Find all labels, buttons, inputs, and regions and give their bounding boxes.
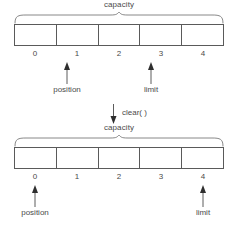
index-label: 2 bbox=[98, 48, 140, 60]
buffer-cell bbox=[140, 25, 182, 45]
capacity-label-before: capacity bbox=[0, 0, 238, 9]
capacity-label-after: capacity bbox=[0, 123, 238, 132]
index-label: 3 bbox=[140, 171, 182, 183]
limit-marker-label-before: limit bbox=[121, 85, 181, 94]
position-marker-label-before: position bbox=[37, 85, 97, 94]
index-label: 2 bbox=[98, 171, 140, 183]
capacity-brace-before bbox=[14, 11, 224, 24]
index-label: 0 bbox=[14, 48, 56, 60]
buffer-cells-after bbox=[14, 147, 224, 169]
capacity-brace-after bbox=[14, 134, 224, 147]
limit-marker-before: limit bbox=[121, 62, 181, 94]
buffer-cell bbox=[182, 148, 223, 168]
index-label: 1 bbox=[56, 48, 98, 60]
buffer-cell bbox=[15, 148, 57, 168]
limit-marker-label-after: limit bbox=[173, 208, 233, 217]
index-label: 3 bbox=[140, 48, 182, 60]
index-label: 1 bbox=[56, 171, 98, 183]
index-row-after: 0 1 2 3 4 bbox=[14, 171, 224, 183]
up-arrow-icon bbox=[37, 62, 97, 84]
buffer-cell bbox=[182, 25, 223, 45]
buffer-cell bbox=[140, 148, 182, 168]
down-arrow-icon bbox=[108, 104, 119, 124]
buffer-clear-diagram: capacity 0 1 2 3 4 position bbox=[0, 0, 238, 231]
buffer-cell bbox=[99, 148, 141, 168]
buffer-cell bbox=[57, 25, 99, 45]
operation-label: clear( ) bbox=[122, 108, 147, 117]
buffer-stage-after: capacity 0 1 2 3 4 position bbox=[0, 123, 238, 231]
position-marker-label-after: position bbox=[5, 208, 65, 217]
position-marker-before: position bbox=[37, 62, 97, 94]
buffer-cell bbox=[15, 25, 57, 45]
limit-marker-after: limit bbox=[173, 185, 233, 217]
index-label: 4 bbox=[182, 171, 224, 183]
buffer-cell bbox=[99, 25, 141, 45]
buffer-cells-before bbox=[14, 24, 224, 46]
up-arrow-icon bbox=[5, 185, 65, 207]
index-row-before: 0 1 2 3 4 bbox=[14, 48, 224, 60]
position-marker-after: position bbox=[5, 185, 65, 217]
index-label: 0 bbox=[14, 171, 56, 183]
index-label: 4 bbox=[182, 48, 224, 60]
up-arrow-icon bbox=[121, 62, 181, 84]
up-arrow-icon bbox=[173, 185, 233, 207]
buffer-stage-before: capacity 0 1 2 3 4 position bbox=[0, 0, 238, 108]
buffer-cell bbox=[57, 148, 99, 168]
